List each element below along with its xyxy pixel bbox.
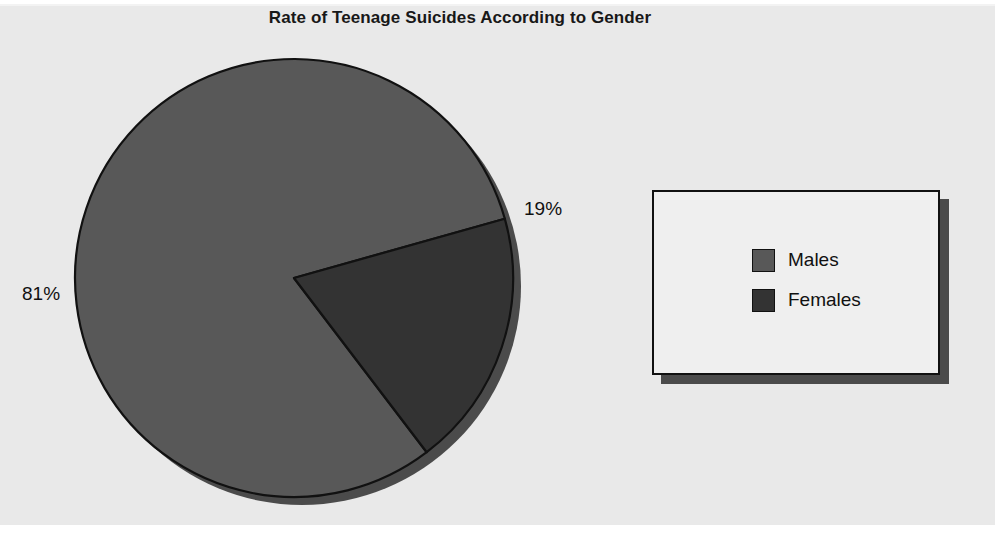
chart-title: Rate of Teenage Suicides According to Ge… bbox=[0, 8, 920, 28]
legend-swatch-females-icon bbox=[752, 289, 775, 312]
pie-svg bbox=[60, 44, 540, 524]
legend-item-males[interactable]: Males bbox=[752, 240, 861, 280]
legend-label-females: Females bbox=[788, 289, 861, 311]
pie-chart bbox=[60, 44, 540, 524]
data-label-males: 81% bbox=[22, 283, 60, 305]
legend-label-males: Males bbox=[788, 249, 839, 271]
chart-canvas: Rate of Teenage Suicides According to Ge… bbox=[0, 0, 995, 540]
legend: Males Females bbox=[652, 190, 940, 375]
legend-item-females[interactable]: Females bbox=[752, 280, 861, 320]
legend-items: Males Females bbox=[752, 240, 861, 320]
data-label-females: 19% bbox=[524, 198, 562, 220]
legend-swatch-males-icon bbox=[752, 249, 775, 272]
